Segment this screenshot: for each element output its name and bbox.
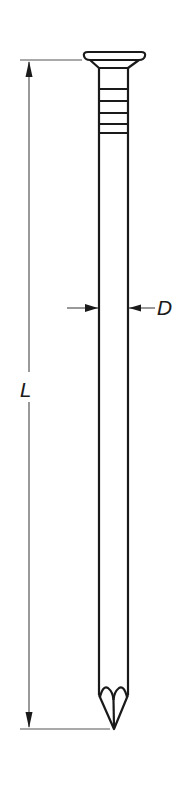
nail-point	[99, 687, 128, 729]
arrow-down-icon	[26, 712, 33, 728]
arrow-left-icon	[129, 305, 141, 312]
arrow-right-icon	[85, 304, 98, 312]
shank-rings	[99, 89, 128, 133]
nail-shank	[99, 68, 128, 695]
diameter-dimension	[67, 304, 155, 312]
arrow-up-icon	[26, 61, 33, 77]
diameter-label: D	[157, 298, 172, 318]
length-label: L	[20, 378, 31, 402]
length-dimension	[20, 60, 110, 729]
nail-diagram	[0, 0, 182, 808]
nail-head	[84, 52, 145, 68]
